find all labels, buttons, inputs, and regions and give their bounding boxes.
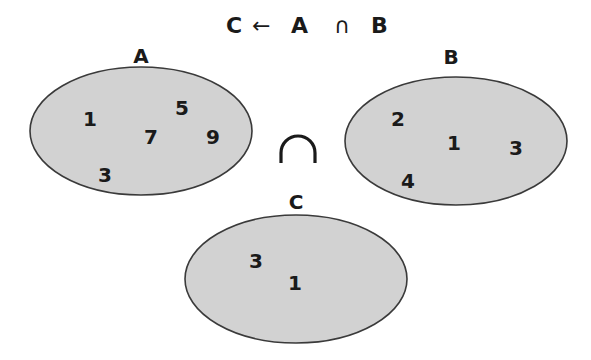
set-a-element: 3 [98,163,112,187]
set-b-label: B [443,45,458,69]
set-c-label: C [289,190,304,214]
set-b-element: 1 [447,131,461,155]
set-c-element: 3 [249,249,263,273]
title-result: C [226,13,242,38]
title-left-operand: A [291,13,308,38]
set-a-element: 1 [83,107,97,131]
intersection-icon: ∩ [334,13,350,38]
set-c: C 3 1 [185,190,407,343]
set-b-element: 2 [391,107,405,131]
set-a-element: 5 [175,96,189,120]
intersection-operator [281,136,315,163]
set-b: B 2 1 3 4 [345,45,567,205]
set-a-label: A [133,44,149,68]
set-b-element: 3 [509,136,523,160]
intersection-symbol-icon [281,136,315,163]
set-a: A 1 5 7 9 3 [30,44,252,195]
set-a-element: 9 [206,125,220,149]
set-a-element: 7 [144,125,158,149]
assign-arrow-icon: ← [252,13,270,38]
set-b-element: 4 [401,169,415,193]
set-c-element: 1 [288,271,302,295]
title-equation: C ← A ∩ B [226,13,388,38]
set-intersection-diagram: C ← A ∩ B A 1 5 7 9 3 B 2 1 3 4 C 3 1 [0,0,591,360]
title-right-operand: B [371,13,388,38]
